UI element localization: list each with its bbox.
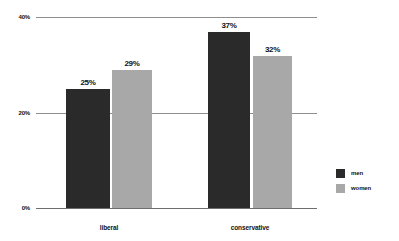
- y-tick-label-0: 0%: [22, 205, 30, 211]
- bar-liberal-women[interactable]: 29%: [112, 70, 152, 208]
- legend-label-men: men: [351, 170, 363, 176]
- legend-item-women[interactable]: women: [336, 181, 396, 195]
- bar-liberal-men[interactable]: 25%: [66, 89, 110, 208]
- legend-item-men[interactable]: men: [336, 166, 396, 180]
- bar-value-liberal-women: 29%: [124, 59, 139, 68]
- bar-value-conservative-men: 37%: [221, 21, 236, 30]
- legend: men women: [336, 166, 396, 196]
- category-label-conservative: conservative: [231, 224, 270, 231]
- gridline-0-baseline: 0%: [36, 208, 317, 209]
- bar-value-conservative-women: 32%: [265, 45, 280, 54]
- plot-area: 40% 20% 0% 25% 29% 37% 32% liber: [36, 10, 317, 215]
- bar-value-liberal-men: 25%: [80, 78, 95, 87]
- bar-conservative-men[interactable]: 37%: [208, 32, 250, 208]
- bar-chart: 40% 20% 0% 25% 29% 37% 32% liber: [0, 0, 399, 241]
- y-tick-label-20: 20%: [19, 110, 30, 116]
- y-tick-label-40: 40%: [19, 14, 30, 20]
- bar-conservative-women[interactable]: 32%: [253, 56, 292, 208]
- legend-label-women: women: [351, 185, 371, 191]
- legend-swatch-men-icon: [336, 169, 345, 178]
- bars-layer: 25% 29% 37% 32%: [36, 10, 317, 208]
- legend-swatch-women-icon: [336, 184, 345, 193]
- category-label-liberal: liberal: [100, 224, 118, 231]
